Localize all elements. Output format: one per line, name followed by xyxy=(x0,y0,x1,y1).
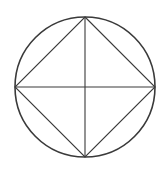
geometry-diagram xyxy=(0,0,163,170)
